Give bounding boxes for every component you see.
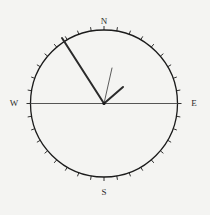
compass-tick-100 [176, 116, 180, 117]
compass-canvas: N E S W [0, 0, 210, 215]
compass-tick-210 [65, 167, 67, 170]
compass-tick-20 [129, 31, 130, 35]
compass-tick-310 [45, 54, 48, 57]
compass-tick-320 [54, 44, 57, 47]
compass-tick-50 [160, 54, 163, 57]
compass-tick-250 [31, 129, 35, 130]
compass-tick-260 [28, 116, 32, 117]
compass-figure: N E S W [0, 0, 210, 215]
compass-tick-300 [37, 65, 40, 67]
compass-tick-280 [28, 90, 32, 91]
compass-center-point [102, 102, 105, 105]
compass-tick-150 [141, 167, 143, 170]
compass-tick-340 [77, 31, 78, 35]
compass-tick-60 [168, 65, 171, 67]
compass-tick-80 [176, 90, 180, 91]
compass-tick-290 [31, 77, 35, 78]
cardinal-label-east: E [191, 98, 197, 108]
compass-tick-240 [37, 140, 40, 142]
compass-tick-350 [91, 27, 92, 31]
cardinal-label-west: W [10, 98, 19, 108]
compass-tick-160 [129, 173, 130, 177]
compass-tick-40 [151, 44, 154, 47]
compass-tick-230 [45, 151, 48, 154]
compass-tick-10 [117, 27, 118, 31]
compass-tick-170 [117, 176, 118, 180]
main-direction-vector [62, 38, 104, 104]
compass-tick-200 [77, 173, 78, 177]
cardinal-label-south: S [101, 187, 106, 197]
compass-tick-120 [168, 140, 171, 142]
compass-tick-130 [160, 151, 163, 154]
compass-tick-110 [173, 129, 177, 130]
compass-tick-190 [91, 176, 92, 180]
compass-tick-220 [54, 160, 57, 163]
cardinal-label-north: N [101, 16, 108, 26]
compass-tick-30 [141, 36, 143, 39]
compass-tick-70 [173, 77, 177, 78]
compass-tick-140 [151, 160, 154, 163]
compass-tick-330 [65, 36, 67, 39]
